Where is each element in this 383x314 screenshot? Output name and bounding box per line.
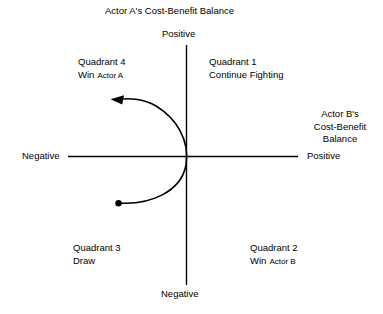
axis-title-line-3: Balance (300, 133, 380, 146)
axis-title-line-2: Cost-Benefit (300, 121, 380, 134)
arrowhead-icon (111, 95, 125, 104)
quadrant-2-actor: Actor B (266, 257, 295, 266)
quadrant-3-label: Quadrant 3 Draw (73, 242, 121, 267)
axis-title-line-1: Actor B's (300, 108, 380, 121)
quadrant-1-outcome: Continue Fighting (209, 69, 283, 82)
quadrant-4-outcome: Win (78, 69, 94, 80)
quadrant-4-label: Quadrant 4 WinActor A (78, 56, 126, 82)
quadrant-2-outcome-row: WinActor B (250, 255, 298, 269)
quadrant-2-label: Quadrant 2 WinActor B (250, 242, 298, 268)
quadrant-3-name: Quadrant 3 (73, 242, 121, 255)
quadrant-4-outcome-row: WinActor A (78, 69, 126, 83)
vertical-axis-negative-label: Negative (161, 288, 199, 301)
horizontal-axis-title-actor-b: Actor B's Cost-Benefit Balance (300, 108, 380, 146)
start-dot-icon (115, 200, 121, 206)
quadrant-3-outcome: Draw (73, 255, 121, 268)
horizontal-axis-positive-label: Positive (307, 150, 340, 163)
diagram-title-actor-a: Actor A's Cost-Benefit Balance (105, 5, 234, 18)
cost-benefit-quadrant-diagram: Actor A's Cost-Benefit Balance Positive … (0, 0, 383, 314)
quadrant-4-name: Quadrant 4 (78, 56, 126, 69)
vertical-axis-positive-label: Positive (162, 28, 195, 41)
trajectory-curve (118, 99, 187, 203)
quadrant-2-name: Quadrant 2 (250, 242, 298, 255)
quadrant-4-actor: Actor A (94, 71, 123, 80)
horizontal-axis-negative-label: Negative (22, 150, 60, 163)
quadrant-1-name: Quadrant 1 (209, 56, 283, 69)
quadrant-2-outcome: Win (250, 255, 266, 266)
quadrant-1-label: Quadrant 1 Continue Fighting (209, 56, 283, 81)
